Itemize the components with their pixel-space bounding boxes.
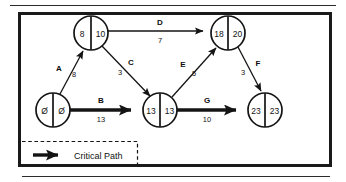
edge-C-value: 3 [118,68,122,77]
node-n3-early: Ø [41,106,48,116]
edge-A-value: 8 [72,70,76,79]
figure-root: B 13 G 10 A 8 C 3 D 7 E [0,0,346,182]
node-n1-early: 8 [80,29,85,39]
edge-D-value: 7 [158,36,162,45]
edge-C-label: C [128,58,134,67]
edge-F-label: F [256,59,261,68]
node-n4[interactable]: 13 13 [143,93,177,127]
legend-label: Critical Path [74,151,123,161]
edge-B-label: B [98,96,104,105]
node-n5-early: 23 [251,106,261,116]
node-n5-late: 23 [270,106,280,116]
node-n5[interactable]: 23 23 [248,93,282,127]
node-n2-late: 20 [233,29,243,39]
edge-D-label: D [157,18,163,27]
node-n2[interactable]: 18 20 [211,16,245,50]
edge-F-value: 3 [241,68,245,77]
node-n4-late: 13 [165,106,175,116]
diagram-frame [20,14,331,166]
network-diagram: B 13 G 10 A 8 C 3 D 7 E [0,0,346,182]
edge-G-label: G [204,96,210,105]
edge-B-value: 13 [97,115,105,124]
node-n4-early: 13 [146,106,156,116]
edge-E-label: E [180,60,186,69]
node-n3[interactable]: Ø Ø [36,93,70,127]
edge-E-value: 5 [192,69,196,78]
node-n1-late: 10 [96,29,106,39]
edge-A-label: A [56,64,62,73]
node-n1[interactable]: 8 10 [74,16,108,50]
node-n2-early: 18 [214,29,224,39]
edge-G-value: 10 [203,115,211,124]
node-n3-late: Ø [58,106,65,116]
